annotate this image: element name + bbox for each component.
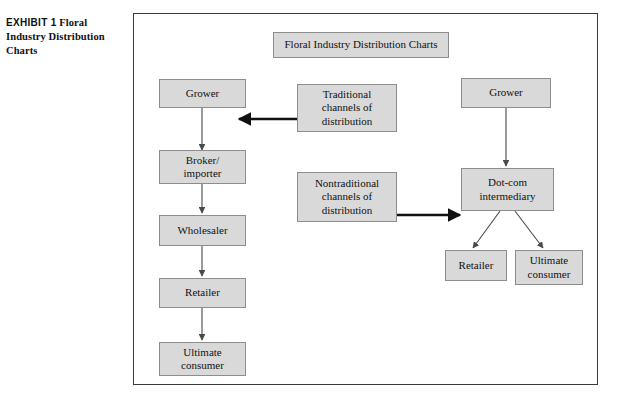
node-ultimate-consumer-traditional-label: Ultimate consumer (181, 346, 224, 373)
node-grower-traditional-label: Grower (186, 87, 220, 101)
node-dotcom-intermediary-label: Dot-com intermediary (479, 176, 535, 203)
diagram-title-box: Floral Industry Distribution Charts (273, 32, 449, 58)
node-retailer-traditional: Retailer (159, 278, 246, 308)
label-nontraditional-channels: Nontraditional channels of distribution (297, 172, 397, 222)
node-broker-importer: Broker/ importer (159, 150, 246, 184)
node-ultimate-consumer-traditional: Ultimate consumer (159, 342, 246, 376)
node-grower-nontraditional-label: Grower (489, 86, 523, 100)
diagram-frame: Floral Industry Distribution Charts Grow… (133, 13, 598, 385)
node-dotcom-intermediary: Dot-com intermediary (461, 168, 554, 211)
node-grower-nontraditional: Grower (461, 78, 551, 108)
node-retailer-nontraditional-label: Retailer (459, 259, 494, 273)
node-wholesaler-label: Wholesaler (177, 224, 227, 238)
node-retailer-nontraditional: Retailer (445, 250, 507, 281)
node-wholesaler: Wholesaler (159, 215, 246, 246)
node-broker-importer-label: Broker/ importer (184, 154, 222, 181)
diagram-title-text: Floral Industry Distribution Charts (284, 38, 437, 52)
label-nontraditional-channels-text: Nontraditional channels of distribution (315, 177, 379, 218)
node-ultimate-consumer-nontraditional: Ultimate consumer (515, 250, 583, 285)
node-ultimate-consumer-nontraditional-label: Ultimate consumer (528, 254, 571, 281)
node-retailer-traditional-label: Retailer (185, 286, 220, 300)
label-traditional-channels: Traditional channels of distribution (297, 84, 397, 132)
exhibit-caption: EXHIBIT 1 Floral Industry Distribution C… (6, 16, 124, 58)
exhibit-caption-label: EXHIBIT 1 (6, 17, 57, 28)
node-grower-traditional: Grower (159, 79, 246, 108)
label-traditional-channels-text: Traditional channels of distribution (322, 88, 373, 129)
